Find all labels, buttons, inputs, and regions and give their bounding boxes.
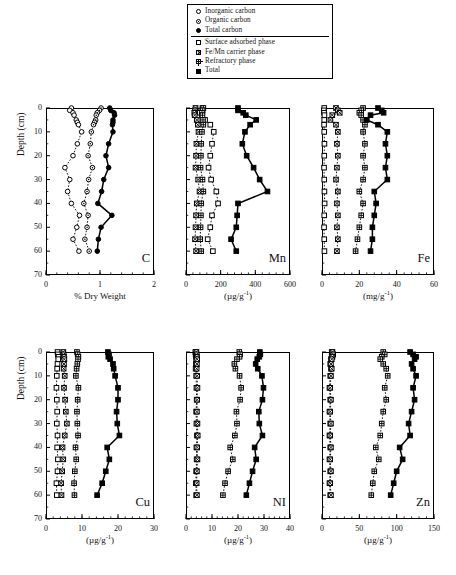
x-tick-label: 600 bbox=[273, 280, 307, 289]
legend-box: Inorganic carbonOrganic carbonTotal carb… bbox=[187, 4, 333, 79]
circle-open-icon bbox=[191, 9, 205, 14]
square-cross-icon bbox=[191, 50, 205, 55]
legend-item: Total carbon bbox=[191, 26, 329, 35]
square-filled-icon bbox=[191, 69, 205, 74]
y-tick-label: 50 bbox=[20, 466, 42, 475]
legend-item: Inorganic carbon bbox=[191, 7, 329, 16]
legend-group-metal-phases: Surface adsorbed phaseFe/Mn carrier phas… bbox=[191, 36, 329, 76]
x-tick-label: 50 bbox=[342, 524, 376, 533]
legend-item: Fe/Mn carrier phase bbox=[191, 48, 329, 57]
x-tick-label: 10 bbox=[65, 524, 99, 533]
x-tick-label: 30 bbox=[137, 524, 171, 533]
circle-dot-icon bbox=[191, 19, 205, 24]
plot-frame bbox=[46, 108, 154, 275]
x-tick-label: 40 bbox=[273, 524, 307, 533]
panel-title: NI bbox=[260, 495, 286, 510]
legend-item: Refractory phase bbox=[191, 57, 329, 66]
plot-frame bbox=[322, 352, 434, 519]
plot-frame bbox=[186, 108, 290, 275]
panel-title: Mn bbox=[260, 251, 286, 266]
x-tick-label: 200 bbox=[204, 280, 238, 289]
x-tick-label: 400 bbox=[238, 280, 272, 289]
x-tick-label: 0 bbox=[305, 524, 339, 533]
panel-title: Fe bbox=[404, 251, 430, 266]
x-tick-label: 2 bbox=[137, 280, 171, 289]
y-tick-label: 70 bbox=[20, 514, 42, 523]
y-tick-label: 50 bbox=[20, 222, 42, 231]
circle-filled-icon bbox=[191, 28, 205, 33]
legend-item: Organic carbon bbox=[191, 16, 329, 25]
x-tick-label: 20 bbox=[342, 280, 376, 289]
y-axis-title: Depth (cm) bbox=[16, 356, 26, 400]
y-tick-label: 30 bbox=[20, 419, 42, 428]
panel-title: Zn bbox=[404, 495, 430, 510]
x-axis-title: (µg/g-1) bbox=[198, 535, 278, 545]
x-tick-label: 150 bbox=[417, 524, 451, 533]
x-tick-label: 0 bbox=[305, 280, 339, 289]
y-tick-label: 0 bbox=[20, 347, 42, 356]
x-tick-label: 0 bbox=[29, 524, 63, 533]
y-tick-label: 40 bbox=[20, 198, 42, 207]
x-tick-label: 1 bbox=[83, 280, 117, 289]
legend-item-label: Total bbox=[205, 66, 220, 75]
square-grid-icon bbox=[191, 59, 205, 64]
legend-item-label: Organic carbon bbox=[205, 16, 251, 25]
plot-frame bbox=[46, 352, 154, 519]
legend-item-label: Inorganic carbon bbox=[205, 7, 255, 16]
x-tick-label: 20 bbox=[101, 524, 135, 533]
legend-item: Total bbox=[191, 66, 329, 75]
legend-item-label: Fe/Mn carrier phase bbox=[205, 48, 265, 57]
x-axis-title: % Dry Weight bbox=[60, 291, 140, 301]
x-tick-label: 40 bbox=[380, 280, 414, 289]
x-axis-title: (µg/g-1) bbox=[60, 535, 140, 545]
legend-item-label: Refractory phase bbox=[205, 57, 256, 66]
legend-group-carbon: Inorganic carbonOrganic carbonTotal carb… bbox=[191, 7, 329, 35]
square-open-icon bbox=[191, 40, 205, 45]
x-axis-title: (µg/g-1) bbox=[198, 291, 278, 301]
y-axis-title: Depth (cm) bbox=[16, 112, 26, 156]
y-tick-label: 60 bbox=[20, 490, 42, 499]
x-axis-title: (µg/g-1) bbox=[338, 535, 418, 545]
x-axis-title: (mg/g-1) bbox=[338, 291, 418, 301]
y-tick-label: 60 bbox=[20, 246, 42, 255]
x-tick-label: 60 bbox=[417, 280, 451, 289]
y-tick-label: 70 bbox=[20, 270, 42, 279]
panel-title: Cu bbox=[124, 495, 150, 510]
legend-item: Surface adsorbed phase bbox=[191, 38, 329, 47]
y-tick-label: 30 bbox=[20, 175, 42, 184]
y-tick-label: 40 bbox=[20, 442, 42, 451]
y-tick-label: 0 bbox=[20, 103, 42, 112]
legend-item-label: Total carbon bbox=[205, 26, 242, 35]
x-tick-label: 0 bbox=[169, 280, 203, 289]
plot-frame bbox=[322, 108, 434, 275]
x-tick-label: 100 bbox=[380, 524, 414, 533]
panel-title: C bbox=[124, 251, 150, 266]
x-tick-label: 0 bbox=[29, 280, 63, 289]
plot-frame bbox=[186, 352, 290, 519]
legend-item-label: Surface adsorbed phase bbox=[205, 38, 275, 47]
